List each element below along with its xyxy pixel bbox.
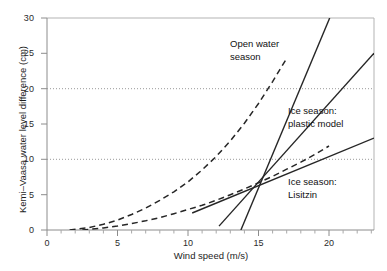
x-axis-minor-ticks	[61, 230, 371, 234]
annotation-open-water-season: Open water season	[230, 38, 279, 63]
plot-area	[0, 0, 387, 271]
x-axis-title: Wind speed (m/s)	[174, 250, 248, 261]
y-axis-ticks	[41, 18, 47, 230]
ytick-label-30: 30	[10, 13, 34, 23]
chart-figure: 30 25 20 15 10 5 0 0 5 10 15 20 Wind spe…	[0, 0, 387, 271]
annotation-plastic-line1: Ice season:	[288, 105, 343, 118]
xtick-label-20: 20	[324, 238, 334, 248]
annotation-ice-lisitzin: Ice season: Lisitzin	[288, 176, 337, 201]
xtick-label-5: 5	[115, 238, 120, 248]
annotation-lisitzin-line1: Ice season:	[288, 176, 337, 189]
annotation-open-water-line2: season	[230, 51, 279, 64]
annotation-open-water-line1: Open water	[230, 38, 279, 51]
line-ice-lisitzin	[192, 138, 374, 213]
y-axis-title: Kemi–Vaasa water level difference (cm)	[17, 30, 28, 230]
annotation-ice-plastic-model: Ice season: plastic model	[288, 105, 343, 130]
annotation-plastic-line2: plastic model	[288, 118, 343, 131]
xtick-label-10: 10	[183, 238, 193, 248]
xtick-label-15: 15	[253, 238, 263, 248]
xtick-label-0: 0	[44, 238, 49, 248]
curve-open-water-dashed	[70, 58, 287, 230]
annotation-lisitzin-line2: Lisitzin	[288, 189, 337, 202]
